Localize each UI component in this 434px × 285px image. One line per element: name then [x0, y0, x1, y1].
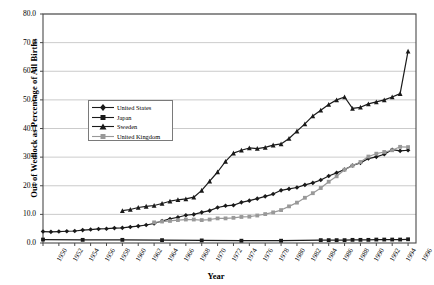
legend-label-united-states: United States: [117, 104, 151, 111]
y-tick-label: 0.0: [2, 238, 36, 247]
legend-marker-gray-square-icon: [92, 132, 114, 141]
legend-item-united-states: United States: [92, 103, 172, 112]
legend-item-sweden: Sweden: [92, 122, 172, 131]
y-tick-label: 70.0: [2, 38, 36, 47]
legend-label-japan: Japan: [117, 114, 132, 121]
y-tick-label: 20.0: [2, 181, 36, 190]
y-tick-label: 50.0: [2, 95, 36, 104]
legend-marker-diamond-icon: [92, 103, 114, 112]
y-tick-label: 80.0: [2, 9, 36, 18]
y-tick-label: 30.0: [2, 152, 36, 161]
legend-label-sweden: Sweden: [117, 123, 137, 130]
legend-label-united-kingdom: United Kingdom: [117, 133, 160, 140]
chart-legend: United States Japan Sweden United Kingdo…: [88, 100, 173, 141]
y-tick-label: 40.0: [2, 124, 36, 133]
y-tick-label: 60.0: [2, 66, 36, 75]
y-tick-label: 10.0: [2, 209, 36, 218]
x-axis-label: Year: [0, 271, 432, 281]
legend-marker-triangle-icon: [92, 122, 114, 131]
legend-item-japan: Japan: [92, 113, 172, 122]
legend-item-united-kingdom: United Kingdom: [92, 132, 172, 141]
legend-marker-square-icon: [92, 113, 114, 122]
